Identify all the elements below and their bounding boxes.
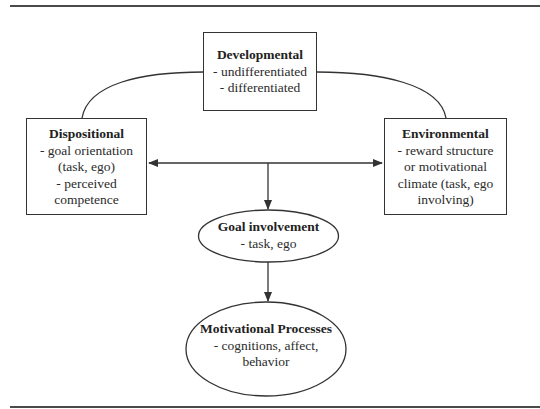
goal-involvement-line-1: - task, ego: [198, 236, 339, 253]
goal-involvement-node: Goal involvement - task, ego: [198, 210, 339, 262]
dispositional-box: Dispositional - goal orientation (task, …: [26, 118, 147, 215]
motivational-processes-node: Motivational Processes - cognitions, aff…: [186, 302, 346, 396]
developmental-title: Developmental: [204, 47, 316, 64]
motivational-processes-line-1: - cognitions, affect,: [186, 338, 346, 355]
dispositional-title: Dispositional: [27, 126, 146, 143]
motivational-processes-title: Motivational Processes: [186, 321, 346, 338]
developmental-line-2: - differentiated: [204, 80, 316, 97]
motivational-processes-line-2: behavior: [186, 354, 346, 371]
dispositional-line-1: - goal orientation: [27, 143, 146, 160]
environmental-line-2: or motivational: [385, 159, 506, 176]
environmental-box: Environmental - reward structure or moti…: [384, 118, 507, 215]
goal-involvement-title: Goal involvement: [198, 219, 339, 236]
arc-developmental-environmental: [317, 72, 446, 118]
dispositional-line-3: - perceived: [27, 176, 146, 193]
developmental-box: Developmental - undifferentiated - diffe…: [203, 32, 317, 111]
environmental-line-4: involving): [385, 192, 506, 209]
dispositional-line-2: (task, ego): [27, 159, 146, 176]
environmental-line-1: - reward structure: [385, 143, 506, 160]
environmental-title: Environmental: [385, 126, 506, 143]
dispositional-line-4: competence: [27, 192, 146, 209]
bottom-rule: [10, 406, 540, 408]
arc-developmental-dispositional: [82, 72, 204, 118]
environmental-line-3: climate (task, ego: [385, 176, 506, 193]
developmental-line-1: - undifferentiated: [204, 64, 316, 81]
